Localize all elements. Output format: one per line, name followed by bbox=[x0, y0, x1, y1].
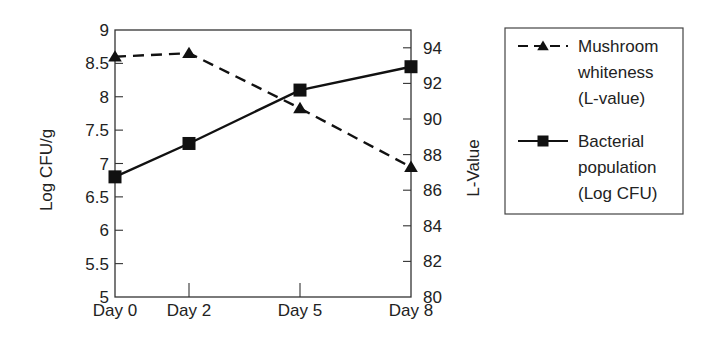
right-tick-label: 92 bbox=[423, 74, 442, 93]
left-y-axis-ticks: 55.566.577.588.59 bbox=[85, 21, 123, 307]
left-tick-label: 7 bbox=[100, 155, 109, 174]
axes bbox=[115, 30, 411, 297]
legend-label: Bacterial bbox=[578, 132, 644, 151]
x-tick-label: Day 8 bbox=[389, 301, 433, 320]
series-layer bbox=[108, 47, 418, 184]
left-tick-label: 8 bbox=[100, 88, 109, 107]
left-tick-label: 6 bbox=[100, 221, 109, 240]
left-tick-label: 8.5 bbox=[85, 54, 109, 73]
right-y-axis-title: L-Value bbox=[464, 139, 483, 196]
triangle-marker bbox=[182, 47, 196, 58]
series-bacterial-population bbox=[109, 60, 418, 183]
right-tick-label: 90 bbox=[423, 110, 442, 129]
legend-label: (Log CFU) bbox=[578, 184, 657, 203]
square-marker bbox=[109, 170, 122, 183]
series-mushroom-whiteness bbox=[108, 47, 418, 172]
left-tick-label: 9 bbox=[100, 21, 109, 40]
left-y-axis-title: Log CFU/g bbox=[37, 129, 56, 211]
x-axis-ticks: Day 0Day 2Day 5Day 8 bbox=[93, 283, 433, 320]
right-tick-label: 82 bbox=[423, 252, 442, 271]
x-tick-label: Day 0 bbox=[93, 301, 137, 320]
right-tick-label: 86 bbox=[423, 181, 442, 200]
legend-label: whiteness bbox=[577, 63, 654, 82]
square-marker bbox=[538, 136, 549, 147]
x-tick-label: Day 2 bbox=[167, 301, 211, 320]
left-tick-label: 7.5 bbox=[85, 121, 109, 140]
x-tick-label: Day 5 bbox=[278, 301, 322, 320]
legend: Mushroomwhiteness(L-value)Bacterialpopul… bbox=[505, 28, 683, 214]
triangle-marker bbox=[404, 161, 418, 172]
legend-label: (L-value) bbox=[578, 89, 645, 108]
right-tick-label: 84 bbox=[423, 217, 442, 236]
dual-axis-line-chart: 55.566.577.588.59 8082848688909294 Day 0… bbox=[0, 0, 715, 341]
right-y-axis-ticks: 8082848688909294 bbox=[403, 39, 442, 307]
square-marker bbox=[294, 84, 307, 97]
plot-frame bbox=[115, 30, 411, 297]
right-tick-label: 94 bbox=[423, 39, 442, 58]
triangle-marker bbox=[293, 102, 307, 113]
legend-label: population bbox=[578, 158, 656, 177]
left-tick-label: 6.5 bbox=[85, 188, 109, 207]
left-tick-label: 5.5 bbox=[85, 255, 109, 274]
square-marker bbox=[183, 137, 196, 150]
right-tick-label: 88 bbox=[423, 146, 442, 165]
legend-label: Mushroom bbox=[578, 37, 658, 56]
square-marker bbox=[405, 60, 418, 73]
